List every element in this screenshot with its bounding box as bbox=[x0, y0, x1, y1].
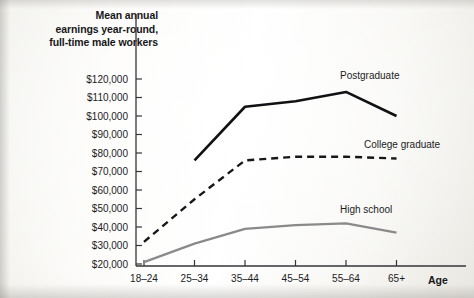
y-axis-tick-labels: $120,000$110,000$100,000$90,000$80,000$7… bbox=[86, 74, 128, 270]
series-label: Postgraduate bbox=[340, 70, 400, 81]
x-axis-tick-label: 65+ bbox=[388, 273, 405, 284]
y-axis-tick-label: $60,000 bbox=[92, 185, 129, 196]
x-axis-tick-labels: 18–2425–3435–4445–5455–6465+ bbox=[130, 273, 405, 284]
y-axis-tick-label: $30,000 bbox=[92, 240, 129, 251]
x-axis-tick-label: 18–24 bbox=[130, 273, 158, 284]
series-line bbox=[195, 92, 397, 160]
y-axis-tick-label: $20,000 bbox=[92, 259, 129, 270]
chart-page: Mean annual earnings year-round, full-ti… bbox=[0, 0, 474, 298]
series-line bbox=[144, 223, 397, 262]
series-label: College graduate bbox=[364, 139, 441, 150]
x-axis-tick-label: 55–64 bbox=[332, 273, 360, 284]
series-line bbox=[144, 157, 397, 242]
series-labels: PostgraduateCollege graduateHigh school bbox=[340, 70, 441, 215]
y-axis-tick-label: $110,000 bbox=[87, 92, 128, 103]
y-axis-tick-label: $40,000 bbox=[92, 222, 129, 233]
line-chart-plot: $120,000$110,000$100,000$90,000$80,000$7… bbox=[0, 0, 474, 298]
series-label: High school bbox=[340, 204, 392, 215]
y-axis-tick-label: $90,000 bbox=[92, 129, 129, 140]
x-axis-ticks bbox=[144, 260, 397, 266]
y-axis-tick-label: $80,000 bbox=[92, 148, 129, 159]
x-axis-tick-label: 45–54 bbox=[282, 273, 310, 284]
x-axis-name: Age bbox=[428, 274, 448, 286]
y-axis-tick-label: $50,000 bbox=[92, 203, 129, 214]
y-axis-tick-label: $100,000 bbox=[86, 111, 128, 122]
y-axis-tick-label: $120,000 bbox=[86, 74, 128, 85]
series-lines bbox=[144, 92, 397, 262]
y-axis-ticks bbox=[136, 79, 142, 264]
y-axis-tick-label: $70,000 bbox=[92, 166, 129, 177]
x-axis-tick-label: 25–34 bbox=[181, 273, 209, 284]
x-axis-tick-label: 35–44 bbox=[231, 273, 259, 284]
